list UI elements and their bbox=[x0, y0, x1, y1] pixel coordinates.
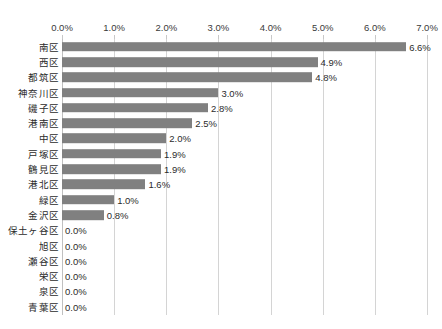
chart-title bbox=[22, 0, 322, 4]
category-label-10: 緑区 bbox=[39, 193, 59, 207]
x-tick-mark-4 bbox=[271, 35, 272, 39]
x-tick-label-5: 5.0% bbox=[312, 22, 334, 33]
x-axis-tick-labels: 0.0%1.0%2.0%3.0%4.0%5.0%6.0%7.0% bbox=[0, 22, 442, 34]
bar-value-label-2: 4.8% bbox=[315, 72, 337, 83]
bar-value-label-8: 1.9% bbox=[164, 164, 186, 175]
x-tick-label-3: 3.0% bbox=[208, 22, 230, 33]
bar-2 bbox=[62, 72, 312, 82]
bar-value-label-4: 2.8% bbox=[211, 102, 233, 113]
bar-value-label-6: 2.0% bbox=[169, 133, 191, 144]
category-label-5: 港南区 bbox=[28, 116, 59, 130]
category-label-4: 磯子区 bbox=[28, 101, 59, 115]
chart-row: 中区2.0% bbox=[0, 131, 442, 146]
category-label-8: 鶴見区 bbox=[28, 162, 59, 176]
chart-row: 都筑区4.8% bbox=[0, 70, 442, 85]
category-label-1: 西区 bbox=[39, 55, 59, 69]
category-label-0: 南区 bbox=[39, 40, 59, 54]
category-label-2: 都筑区 bbox=[28, 70, 59, 84]
x-tick-mark-2 bbox=[166, 35, 167, 39]
chart-row: 瀬谷区0.0% bbox=[0, 253, 442, 268]
category-label-14: 瀬谷区 bbox=[28, 254, 59, 268]
bar-5 bbox=[62, 118, 192, 128]
bar-value-label-17: 0.0% bbox=[65, 301, 87, 312]
category-label-13: 旭区 bbox=[39, 239, 59, 253]
bar-value-label-13: 0.0% bbox=[65, 240, 87, 251]
chart-row: 南区6.6% bbox=[0, 39, 442, 54]
category-label-11: 金沢区 bbox=[28, 208, 59, 222]
bar-4 bbox=[62, 103, 208, 113]
x-tick-label-4: 4.0% bbox=[260, 22, 282, 33]
chart-row: 磯子区2.8% bbox=[0, 100, 442, 115]
chart-row: 泉区0.0% bbox=[0, 284, 442, 299]
chart-row: 神奈川区3.0% bbox=[0, 85, 442, 100]
x-tick-label-1: 1.0% bbox=[103, 22, 125, 33]
bar-3 bbox=[62, 88, 218, 98]
chart-row: 旭区0.0% bbox=[0, 238, 442, 253]
bar-chart: 0.0%1.0%2.0%3.0%4.0%5.0%6.0%7.0% 南区6.6%西… bbox=[0, 0, 442, 329]
x-tick-label-2: 2.0% bbox=[155, 22, 177, 33]
bar-8 bbox=[62, 164, 161, 174]
x-tick-mark-6 bbox=[375, 35, 376, 39]
bar-value-label-14: 0.0% bbox=[65, 255, 87, 266]
bar-value-label-15: 0.0% bbox=[65, 271, 87, 282]
bar-value-label-0: 6.6% bbox=[409, 41, 431, 52]
bar-value-label-10: 1.0% bbox=[117, 194, 139, 205]
bar-11 bbox=[62, 210, 104, 220]
category-label-6: 中区 bbox=[39, 131, 59, 145]
chart-row: 保土ヶ谷区0.0% bbox=[0, 223, 442, 238]
x-tick-label-7: 7.0% bbox=[416, 22, 438, 33]
chart-row: 港南区2.5% bbox=[0, 116, 442, 131]
x-tick-mark-3 bbox=[218, 35, 219, 39]
x-tick-label-0: 0.0% bbox=[51, 22, 73, 33]
category-label-12: 保土ヶ谷区 bbox=[8, 223, 59, 237]
category-label-16: 泉区 bbox=[39, 284, 59, 298]
x-tick-mark-0 bbox=[62, 35, 63, 39]
x-tick-label-6: 6.0% bbox=[364, 22, 386, 33]
bar-value-label-3: 3.0% bbox=[221, 87, 243, 98]
bar-value-label-12: 0.0% bbox=[65, 225, 87, 236]
bar-value-label-7: 1.9% bbox=[164, 148, 186, 159]
bar-value-label-16: 0.0% bbox=[65, 286, 87, 297]
chart-row: 栄区0.0% bbox=[0, 269, 442, 284]
category-label-17: 青葉区 bbox=[28, 300, 59, 314]
category-label-3: 神奈川区 bbox=[18, 86, 59, 100]
x-tick-mark-5 bbox=[323, 35, 324, 39]
category-label-15: 栄区 bbox=[39, 269, 59, 283]
bar-value-label-5: 2.5% bbox=[195, 118, 217, 129]
chart-row: 戸塚区1.9% bbox=[0, 146, 442, 161]
chart-rows: 南区6.6%西区4.9%都筑区4.8%神奈川区3.0%磯子区2.8%港南区2.5… bbox=[0, 39, 442, 315]
chart-row: 西区4.9% bbox=[0, 54, 442, 69]
chart-row: 緑区1.0% bbox=[0, 192, 442, 207]
bar-7 bbox=[62, 149, 161, 159]
chart-row: 鶴見区1.9% bbox=[0, 161, 442, 176]
chart-row: 青葉区0.0% bbox=[0, 299, 442, 314]
category-label-9: 港北区 bbox=[28, 177, 59, 191]
bar-1 bbox=[62, 57, 318, 67]
bar-value-label-1: 4.9% bbox=[321, 56, 343, 67]
bar-value-label-11: 0.8% bbox=[107, 209, 129, 220]
x-tick-mark-7 bbox=[427, 35, 428, 39]
chart-row: 港北区1.6% bbox=[0, 177, 442, 192]
x-tick-mark-1 bbox=[114, 35, 115, 39]
category-label-7: 戸塚区 bbox=[28, 147, 59, 161]
bar-10 bbox=[62, 195, 114, 205]
chart-row: 金沢区0.8% bbox=[0, 207, 442, 222]
bar-value-label-9: 1.6% bbox=[148, 179, 170, 190]
bar-6 bbox=[62, 134, 166, 144]
bar-9 bbox=[62, 180, 145, 190]
bar-0 bbox=[62, 42, 406, 52]
